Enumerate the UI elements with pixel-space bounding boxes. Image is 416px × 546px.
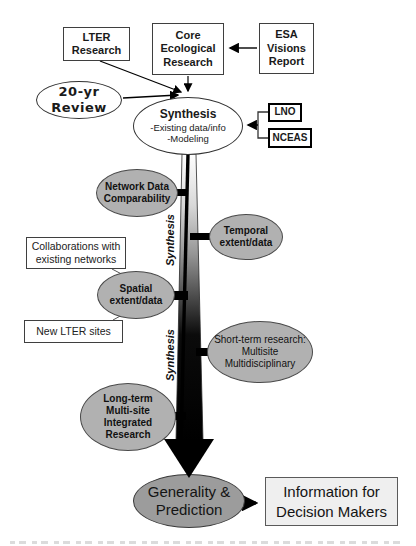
bracket-lno-nceas (258, 112, 268, 138)
stub-temporal (190, 233, 211, 240)
axis-label-synthesis-upper: Synthesis (164, 200, 178, 280)
cropped-caption-remnant (10, 541, 402, 544)
box-core-ecological-research: Core Ecological Research (152, 23, 224, 75)
axis-label-synthesis-lower: Synthesis (164, 315, 178, 395)
synthesis-hub-text: Synthesis -Existing data/info -Modeling (150, 107, 226, 145)
synthesis-title: Synthesis (160, 107, 217, 122)
ellipse-generality-prediction: Generality & Prediction (133, 474, 245, 528)
box-collaborations-existing-networks: Collaborations with existing networks (26, 237, 126, 269)
ellipse-temporal-extent-data: Temporal extent/data (209, 214, 283, 260)
lter-synthesis-flow-diagram: LTER Research Core Ecological Research E… (0, 0, 416, 546)
box-information-for-decision-makers: Information for Decision Makers (265, 477, 398, 526)
synthesis-sub-modeling: -Modeling (167, 133, 209, 145)
ellipse-20yr-review: 20-yr Review (36, 81, 122, 119)
ellipse-long-term-integrated-research: Long-term Multi-site Integrated Research (80, 383, 176, 451)
ellipse-short-term-research: Short-term research: Multisite Multidisc… (207, 321, 313, 383)
synthesis-sub-existing-data: -Existing data/info (150, 122, 226, 134)
box-lter-research: LTER Research (63, 27, 130, 61)
box-lno: LNO (268, 103, 302, 122)
box-new-lter-sites: New LTER sites (24, 320, 123, 343)
box-nceas: NCEAS (268, 128, 312, 148)
box-esa-visions-report: ESA Visions Report (259, 23, 314, 74)
ellipse-synthesis-hub: Synthesis -Existing data/info -Modeling (133, 97, 243, 155)
